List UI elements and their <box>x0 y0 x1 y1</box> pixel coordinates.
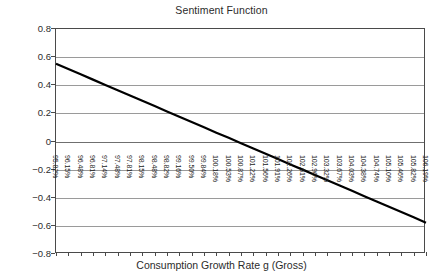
x-axis-tick-text: 99.50% <box>187 155 194 178</box>
x-axis-tick-text: 104.38% <box>360 155 367 182</box>
x-axis-tick-label: 97.48% <box>111 155 123 251</box>
x-axis-tick-text: 105.10% <box>385 155 392 182</box>
x-axis-tick-label: 96.15% <box>61 155 73 251</box>
x-axis-tick-label: 101.56% <box>259 155 271 251</box>
x-axis-tick-label: 104.03% <box>345 155 357 251</box>
y-axis-tick-label: 0.2 <box>5 107 51 118</box>
x-axis-tick-text: 100.53% <box>224 155 231 182</box>
x-axis-tick-text: 105.82% <box>409 155 416 182</box>
x-axis-tick-text: 97.48% <box>113 155 120 178</box>
x-axis-tick-label: 99.16% <box>172 155 184 251</box>
x-axis-tick-label: 103.67% <box>333 155 345 251</box>
x-axis-tick-text: 100.18% <box>212 155 219 182</box>
x-axis-tick-label: 105.82% <box>407 155 419 251</box>
x-axis-tick-text: 98.15% <box>138 155 145 178</box>
x-axis-tick-text: 103.67% <box>335 155 342 182</box>
x-axis-tick-text: 105.46% <box>397 155 404 182</box>
x-axis-tick-label: 98.15% <box>135 155 147 251</box>
x-axis-tick-text: 97.14% <box>101 155 108 178</box>
y-axis-tick-label: 0.6 <box>5 51 51 62</box>
x-axis-tick-label: 97.14% <box>98 155 110 251</box>
x-axis-tick-label: 105.10% <box>382 155 394 251</box>
x-axis-tick-text: 99.84% <box>200 155 207 178</box>
x-axis-tick-text: 100.87% <box>237 155 244 182</box>
x-axis-tick-label: 99.50% <box>185 155 197 251</box>
x-axis-tick-label: 102.96% <box>308 155 320 251</box>
x-axis-tick-text: 101.22% <box>249 155 256 182</box>
x-axis-tick-text: 104.03% <box>348 155 355 182</box>
x-axis-tick-text: 102.61% <box>298 155 305 182</box>
sentiment-function-chart: Sentiment Function 0.80.60.40.20−0.2−0.4… <box>0 0 443 280</box>
x-axis-tick-label: 104.74% <box>370 155 382 251</box>
y-axis-tick-label: −0.8 <box>5 248 51 259</box>
x-axis-tick-text: 102.96% <box>311 155 318 182</box>
x-axis-tick-mark <box>426 252 427 256</box>
y-axis-tick-label: 0 <box>5 135 51 146</box>
x-axis-tick-label: 98.48% <box>148 155 160 251</box>
y-axis-tick-label: 0.4 <box>5 79 51 90</box>
x-axis-title: Consumption Growth Rate g (Gross) <box>0 259 443 271</box>
x-axis-tick-text: 96.15% <box>64 155 71 178</box>
gridline-0 <box>56 142 424 143</box>
x-axis-tick-text: 96.81% <box>89 155 96 178</box>
x-axis-tick-label: 95.82% <box>49 155 61 251</box>
x-axis-tick-label: 101.91% <box>271 155 283 251</box>
x-axis-tick-text: 99.16% <box>175 155 182 178</box>
x-axis-tick-text: 101.56% <box>261 155 268 182</box>
x-axis-tick-text: 106.19% <box>422 155 429 182</box>
chart-title: Sentiment Function <box>0 4 443 16</box>
x-axis-tick-label: 96.81% <box>86 155 98 251</box>
x-axis-tick-label: 103.32% <box>320 155 332 251</box>
x-axis-tick-text: 95.82% <box>52 155 59 178</box>
gridline-0.2 <box>56 113 424 114</box>
x-axis-tick-text: 96.48% <box>76 155 83 178</box>
x-axis-tick-text: 101.91% <box>274 155 281 182</box>
x-axis-tick-label: 100.53% <box>222 155 234 251</box>
x-axis-tick-label: 100.18% <box>209 155 221 251</box>
x-axis-labels: 95.82%96.15%96.48%96.81%97.14%97.48%97.8… <box>55 155 425 253</box>
x-axis-tick-text: 98.82% <box>163 155 170 178</box>
x-axis-tick-text: 103.32% <box>323 155 330 182</box>
x-axis-tick-label: 101.22% <box>246 155 258 251</box>
x-axis-tick-label: 100.87% <box>234 155 246 251</box>
x-axis-tick-text: 102.26% <box>286 155 293 182</box>
x-axis-tick-label: 106.19% <box>419 155 431 251</box>
y-axis-tick-label: −0.2 <box>5 163 51 174</box>
gridline-0.6 <box>56 57 424 58</box>
y-axis-tick-label: −0.6 <box>5 219 51 230</box>
x-axis-tick-label: 98.82% <box>160 155 172 251</box>
x-axis-tick-label: 99.84% <box>197 155 209 251</box>
x-axis-tick-label: 96.48% <box>74 155 86 251</box>
gridline-0.4 <box>56 85 424 86</box>
x-axis-tick-text: 104.74% <box>372 155 379 182</box>
x-axis-tick-label: 102.26% <box>283 155 295 251</box>
x-axis-tick-label: 97.81% <box>123 155 135 251</box>
y-axis-tick-label: 0.8 <box>5 23 51 34</box>
x-axis-tick-text: 97.81% <box>126 155 133 178</box>
x-axis-tick-label: 102.61% <box>296 155 308 251</box>
x-axis-tick-label: 104.38% <box>357 155 369 251</box>
x-axis-tick-text: 98.48% <box>150 155 157 178</box>
x-axis-tick-label: 105.46% <box>394 155 406 251</box>
y-axis-tick-mark <box>51 253 55 254</box>
y-axis-tick-label: −0.4 <box>5 191 51 202</box>
